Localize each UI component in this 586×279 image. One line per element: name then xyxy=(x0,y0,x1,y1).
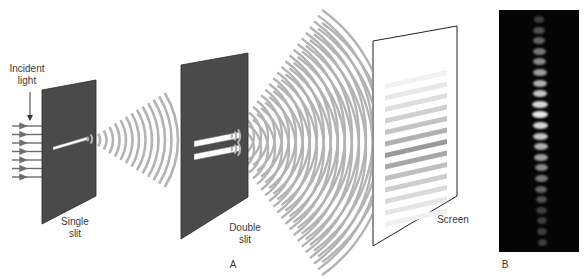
double-slit-label: Double slit xyxy=(223,222,267,246)
photo-fringe xyxy=(532,111,548,118)
double-slit-label-line2: slit xyxy=(223,234,267,246)
photo-fringe xyxy=(535,186,547,193)
photo-fringe xyxy=(537,217,547,224)
panel-b-label: B xyxy=(499,259,511,271)
photo-fringe xyxy=(533,69,547,76)
double-slit-label-line1: Double xyxy=(223,222,267,234)
single-slit-label-line2: slit xyxy=(55,228,95,240)
photo-fringe xyxy=(534,16,545,23)
photo-fringe xyxy=(533,58,546,65)
photo-fringe xyxy=(533,37,545,44)
incident-light-label-line2: light xyxy=(4,75,50,87)
single-slit-label: Single slit xyxy=(55,216,95,240)
photo-fringe xyxy=(538,239,547,246)
interference-photo xyxy=(499,10,579,252)
photo-fringe xyxy=(536,196,547,203)
photo-fringe xyxy=(536,207,547,214)
panel-a-label: A xyxy=(226,259,240,271)
photo-fringe xyxy=(533,80,547,87)
double-slit-plate xyxy=(181,53,248,239)
photo-fringe xyxy=(533,90,548,97)
photo-fringe xyxy=(533,48,546,55)
photo-fringe xyxy=(532,101,547,108)
photo-fringe xyxy=(537,228,547,235)
screen-label: Screen xyxy=(433,214,473,226)
photo-fringe xyxy=(533,122,548,129)
single-slit-plate xyxy=(42,80,96,224)
photo-fringe xyxy=(535,164,548,171)
photo-fringe xyxy=(533,27,544,34)
single-slit-label-line1: Single xyxy=(55,216,95,228)
photo-fringe xyxy=(534,143,548,150)
incident-rays xyxy=(12,124,42,180)
diffracted-waves-single xyxy=(98,93,178,187)
incident-light-label-line1: Incident xyxy=(4,63,50,75)
photo-fringe xyxy=(533,133,548,140)
photo-fringe xyxy=(535,175,548,182)
arrow-down-icon xyxy=(27,92,33,121)
screen-panel xyxy=(373,26,457,246)
incident-light-label: Incident light xyxy=(4,63,50,87)
photo-fringe xyxy=(534,154,548,161)
